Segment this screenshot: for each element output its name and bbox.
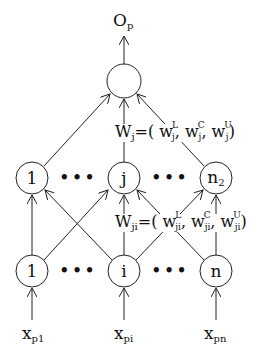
input-subscript: p1 xyxy=(32,333,45,344)
input-ellipsis-right: ••• xyxy=(151,262,189,280)
hidden-node-j-label: j xyxy=(121,170,126,187)
node-label: n xyxy=(211,261,222,281)
input-symbol: x xyxy=(204,323,214,343)
comma: , xyxy=(181,212,186,231)
hidden-ellipsis-left: ••• xyxy=(59,169,97,187)
input-node-n-label: n xyxy=(211,263,222,280)
term-sub: j xyxy=(226,132,229,142)
input-label-xp1: xp1 xyxy=(22,325,44,344)
input-label-xpn: xpn xyxy=(204,325,226,344)
term-sub: j xyxy=(172,132,175,142)
weight-symbol: W xyxy=(115,122,131,141)
input-ellipsis-left: ••• xyxy=(59,262,97,280)
output-node xyxy=(107,64,141,98)
equals-paren: =( xyxy=(138,212,158,231)
term-sup: U xyxy=(224,120,232,130)
output-subscript: p xyxy=(127,20,133,31)
term-w: w xyxy=(191,212,205,231)
node-subscript: 2 xyxy=(218,177,224,188)
term-w: w xyxy=(159,122,173,141)
term-sup: L xyxy=(175,210,181,220)
term-sub: ji xyxy=(175,222,181,232)
term-sub: ji xyxy=(235,222,241,232)
weight-symbol: W xyxy=(115,212,131,231)
term-w: w xyxy=(185,122,199,141)
term-sup: U xyxy=(233,210,241,220)
node-label: 1 xyxy=(27,261,38,281)
comma: , xyxy=(210,212,215,231)
input-subscript: pi xyxy=(124,333,134,344)
node-label: j xyxy=(121,168,126,188)
close-paren: ) xyxy=(240,212,246,231)
term-sup: L xyxy=(172,120,178,130)
input-subscript: pn xyxy=(214,333,227,344)
term-sub: ji xyxy=(205,222,211,232)
term-sup: C xyxy=(204,210,211,220)
term-sub: j xyxy=(199,132,202,142)
term-sup: C xyxy=(198,120,205,130)
input-node-i-label: i xyxy=(121,263,126,280)
output-label: Op xyxy=(113,12,133,31)
output-weights-equation: Wj=( wLj, wCj, wUj) xyxy=(114,124,236,142)
input-symbol: x xyxy=(22,323,32,343)
hidden-ellipsis-right: ••• xyxy=(151,169,189,187)
hidden-node-1-label: 1 xyxy=(27,170,38,187)
hidden-weights-equation: Wji=( wLji, wCji, wUji) xyxy=(114,214,248,232)
equals-paren: =( xyxy=(135,122,155,141)
node-label: i xyxy=(121,261,126,281)
output-symbol: O xyxy=(113,10,127,30)
hidden-node-n2-label: n2 xyxy=(207,169,224,188)
node-label: n xyxy=(207,167,218,187)
input-node-1-label: 1 xyxy=(27,263,38,280)
node-label: 1 xyxy=(27,168,38,188)
input-label-xpi: xpi xyxy=(114,325,133,344)
input-symbol: x xyxy=(114,323,124,343)
